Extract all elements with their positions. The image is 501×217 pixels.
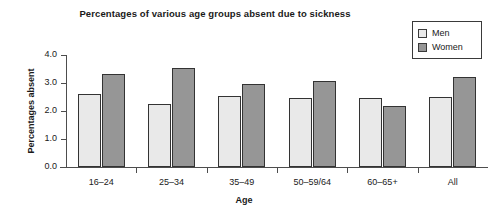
bar-women-0[interactable]: [102, 74, 125, 167]
bar-group: [78, 55, 125, 167]
x-tick-3: [277, 168, 278, 173]
light-gray-swatch-icon: [418, 29, 427, 38]
x-tick-label-0: 16–24: [89, 177, 114, 187]
y-tick-label-4: 4.0: [44, 49, 57, 59]
x-tick-5: [418, 168, 419, 173]
x-axis-line: [60, 167, 488, 168]
y-tick-1: 1.0: [61, 139, 66, 140]
y-tick-0: 0.0: [61, 167, 66, 168]
bar-women-4[interactable]: [383, 106, 406, 167]
bar-men-5[interactable]: [429, 97, 452, 167]
y-tick-label-0: 0.0: [44, 161, 57, 171]
x-tick-label-1: 25–34: [159, 177, 184, 187]
y-tick-label-2: 2.0: [44, 105, 57, 115]
bar-women-2[interactable]: [242, 84, 265, 167]
legend-label-men: Men: [432, 29, 450, 38]
bar-group: [429, 55, 476, 167]
bar-group: [148, 55, 195, 167]
bar-group: [218, 55, 265, 167]
dark-gray-swatch-icon: [418, 43, 427, 52]
bar-men-0[interactable]: [78, 94, 101, 167]
x-tick-label-3: 50–59/64: [293, 177, 331, 187]
x-tick-label-5: All: [448, 177, 458, 187]
y-tick-2: 2.0: [61, 111, 66, 112]
bar-men-4[interactable]: [359, 98, 382, 167]
bar-women-5[interactable]: [453, 77, 476, 167]
chart-title: Percentages of various age groups absent…: [0, 8, 430, 19]
x-tick-4: [347, 168, 348, 173]
x-axis-title: Age: [66, 195, 422, 205]
legend-label-women: Women: [432, 43, 463, 52]
x-tick-label-2: 35–49: [229, 177, 254, 187]
y-tick-3: 3.0: [61, 83, 66, 84]
bar-group: [289, 55, 336, 167]
chart-legend: Men Women: [412, 21, 482, 59]
bar-men-2[interactable]: [218, 96, 241, 167]
y-tick-4: 4.0: [61, 55, 66, 56]
y-axis-title: Percentages absent: [24, 55, 38, 167]
legend-item-women: Women: [418, 40, 475, 54]
bar-chart-figure: Percentages of various age groups absent…: [0, 0, 501, 217]
y-axis-line: [66, 55, 67, 167]
bar-men-1[interactable]: [148, 104, 171, 167]
bar-women-1[interactable]: [172, 68, 195, 167]
bar-women-3[interactable]: [313, 81, 336, 167]
x-tick-1: [136, 168, 137, 173]
x-tick-label-4: 60–65+: [367, 177, 397, 187]
plot-area: 0.01.02.03.04.0 16–2425–3435–4950–59/646…: [66, 55, 488, 167]
y-tick-label-1: 1.0: [44, 133, 57, 143]
bar-group: [359, 55, 406, 167]
y-tick-label-3: 3.0: [44, 77, 57, 87]
y-axis-title-text: Percentages absent: [26, 68, 36, 153]
bar-men-3[interactable]: [289, 98, 312, 167]
legend-item-men: Men: [418, 26, 475, 40]
x-tick-2: [207, 168, 208, 173]
